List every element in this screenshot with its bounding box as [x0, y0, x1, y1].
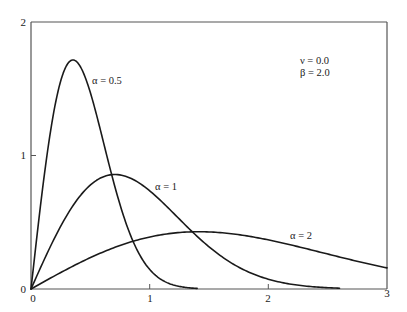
curve-label-alpha-1: α = 1 [155, 181, 177, 192]
x-tick-label-3: 3 [384, 287, 390, 299]
y-tick-label-0: 0 [21, 283, 27, 295]
curve-label-alpha-2: α = 2 [290, 230, 312, 241]
curve-label-alpha-0-5: α = 0.5 [92, 75, 122, 86]
y-tick-label-2: 2 [21, 16, 27, 28]
plot-frame [31, 22, 387, 289]
curves [31, 60, 387, 289]
weibull-density-chart: 0 1 2 3 0 1 2 α = 0.5 α = 1 α = 2 ν = 0.… [0, 0, 407, 312]
x-tick-label-2: 2 [265, 292, 271, 304]
x-ticks [150, 284, 269, 289]
param-beta: β = 2.0 [300, 67, 330, 78]
x-tick-label-1: 1 [147, 292, 153, 304]
y-tick-label-1: 1 [21, 149, 27, 161]
param-nu: ν = 0.0 [300, 55, 329, 66]
x-tick-label-0: 0 [30, 292, 36, 304]
curve-2 [31, 232, 387, 289]
